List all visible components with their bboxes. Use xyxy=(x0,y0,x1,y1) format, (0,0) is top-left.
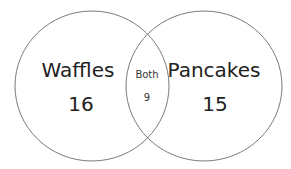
pancakes-count: 15 xyxy=(202,92,227,116)
waffles-count: 16 xyxy=(68,92,93,116)
pancakes-label: Pancakes xyxy=(168,58,261,82)
waffles-label: Waffles xyxy=(42,58,115,82)
waffles-circle xyxy=(15,11,169,161)
both-count: 9 xyxy=(144,92,150,103)
venn-diagram xyxy=(0,0,291,169)
both-label: Both xyxy=(135,69,158,80)
pancakes-circle xyxy=(126,11,282,161)
